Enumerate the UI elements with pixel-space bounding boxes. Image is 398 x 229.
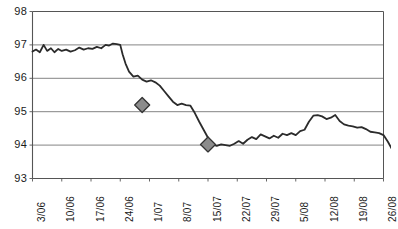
y-axis-label-98: 98 — [0, 6, 27, 17]
x-axis-label-11: 19/08 — [359, 195, 369, 221]
x-axis-label-3: 24/06 — [125, 195, 135, 221]
x-axis-label-1: 10/06 — [66, 195, 76, 221]
x-axis-label-10: 12/08 — [330, 195, 340, 221]
x-axis-label-12: 26/08 — [388, 195, 398, 221]
x-axis-label-6: 15/07 — [213, 195, 223, 221]
data-line-value — [33, 44, 392, 152]
y-axis-label-95: 95 — [0, 106, 27, 117]
x-axis-label-9: 5/08 — [300, 201, 310, 221]
x-axis-label-5: 8/07 — [183, 201, 193, 221]
x-axis-label-2: 17/06 — [96, 195, 106, 221]
x-axis-label-8: 29/07 — [271, 195, 281, 221]
data-marker-1 — [201, 137, 216, 152]
data-marker-0 — [135, 98, 150, 113]
x-axis-label-0: 3/06 — [37, 201, 47, 221]
x-axis-label-7: 22/07 — [242, 195, 252, 221]
x-axis-label-4: 1/07 — [154, 201, 164, 221]
y-axis-label-93: 93 — [0, 173, 27, 184]
y-axis-label-97: 97 — [0, 39, 27, 50]
y-axis-label-96: 96 — [0, 72, 27, 83]
y-axis-label-94: 94 — [0, 139, 27, 150]
